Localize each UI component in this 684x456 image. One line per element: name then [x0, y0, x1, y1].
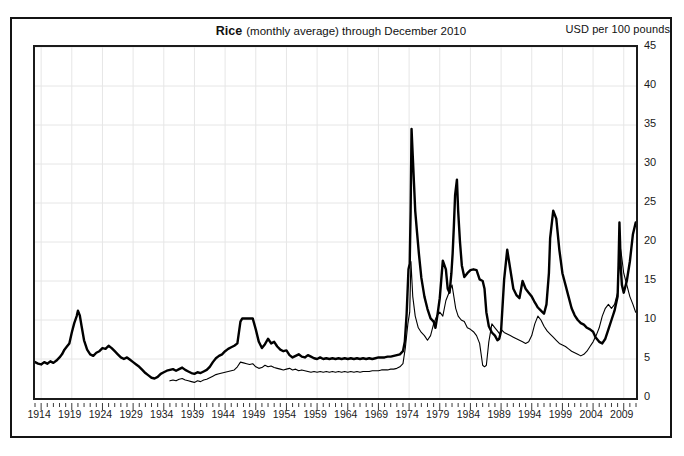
x-tick-label: 2009	[610, 408, 633, 420]
real-price-line	[170, 246, 636, 383]
x-tick-label: 1914	[27, 408, 50, 420]
x-axis-labels: 1914191919241929193419391944194919541959…	[33, 404, 638, 426]
x-tick-label: 1929	[119, 408, 142, 420]
plot-frame	[33, 45, 638, 400]
x-tick-label: 2004	[579, 408, 602, 420]
y-tick-label: 25	[644, 195, 656, 207]
x-tick-label: 1974	[395, 408, 418, 420]
x-tick-label: 1989	[487, 408, 510, 420]
y-tick-label: 0	[644, 390, 650, 402]
y-tick-label: 35	[644, 117, 656, 129]
plot-area	[35, 47, 636, 398]
title-subtitle: (monthly average) through December 2010	[246, 25, 466, 37]
x-tick-label: 1939	[181, 408, 204, 420]
chart-root: Rice (monthly average) through December …	[0, 0, 684, 456]
x-tick-label: 1934	[150, 408, 173, 420]
x-tick-label: 1949	[242, 408, 265, 420]
title-main: Rice	[216, 24, 242, 38]
x-tick-label: 1999	[549, 408, 572, 420]
y-tick-label: 15	[644, 273, 656, 285]
y-tick-label: 30	[644, 156, 656, 168]
x-tick-label: 1954	[273, 408, 296, 420]
y-axis-labels: 051015202530354045	[640, 45, 672, 400]
y-tick-label: 45	[644, 39, 656, 51]
unit-label: USD per 100 pounds	[565, 23, 670, 35]
x-tick-label: 1959	[303, 408, 326, 420]
y-tick-label: 5	[644, 351, 650, 363]
x-tick-label: 1984	[457, 408, 480, 420]
x-tick-label: 1979	[426, 408, 449, 420]
nominal-price-line	[35, 129, 636, 379]
y-tick-label: 10	[644, 312, 656, 324]
x-tick-label: 1994	[518, 408, 541, 420]
x-tick-label: 1964	[334, 408, 357, 420]
y-tick-label: 40	[644, 78, 656, 90]
x-tick-label: 1924	[89, 408, 112, 420]
y-tick-label: 20	[644, 234, 656, 246]
x-tick-label: 1969	[365, 408, 388, 420]
x-tick-label: 1944	[211, 408, 234, 420]
series-lines	[35, 47, 636, 398]
x-tick-label: 1919	[58, 408, 81, 420]
